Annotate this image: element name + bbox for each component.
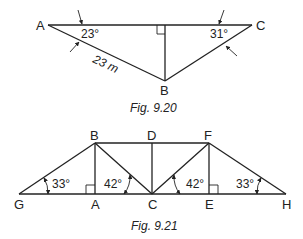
angle-A-arrow-top-icon: [78, 10, 82, 24]
figure-9-20-caption: Fig. 9.20: [130, 101, 177, 115]
angle-BCA-arc-icon: [124, 175, 130, 194]
length-AB-value: 23 m: [90, 52, 121, 76]
angle-A-value: 23°: [81, 27, 99, 41]
line-AB: [48, 25, 165, 81]
point-H-label: H: [282, 197, 291, 212]
angle-G-arc-icon: [44, 178, 48, 194]
angle-H-value: 33°: [236, 177, 254, 191]
point-B-label: B: [160, 83, 169, 98]
angle-FCE-arc-icon: [174, 175, 180, 194]
right-angle-marker: [157, 25, 165, 34]
point-E-label: E: [205, 197, 214, 212]
line-CB: [165, 25, 252, 81]
point-A-label: A: [36, 18, 45, 33]
point-G-label: G: [14, 197, 24, 212]
angle-FCE-value: 42°: [186, 177, 204, 191]
angle-H-arc-icon: [257, 178, 261, 194]
angle-C-value: 31°: [210, 27, 228, 41]
figure-9-21-caption: Fig. 9.21: [131, 219, 178, 233]
angle-A-arrow-bottom-icon: [70, 42, 79, 52]
point-B-label: B: [90, 128, 99, 143]
point-C-label: C: [256, 18, 265, 33]
angle-C-arrow-bottom-icon: [226, 46, 237, 56]
angle-G-value: 33°: [52, 177, 70, 191]
diagram-canvas: A C B 23° 31° 23 m Fig. 9.20 B D F G A C…: [0, 0, 303, 239]
point-C-label: C: [148, 197, 157, 212]
point-A-label: A: [91, 197, 100, 212]
angle-C-arrow-top-icon: [219, 10, 224, 24]
right-angle-marker-A: [86, 185, 95, 194]
figure-9-21: B D F G A C E H 33° 42° 42° 33° Fig. 9.2…: [14, 128, 291, 233]
point-F-label: F: [204, 128, 212, 143]
figure-9-20: A C B 23° 31° 23 m Fig. 9.20: [36, 10, 265, 115]
right-angle-marker-E: [209, 185, 218, 194]
angle-BCA-value: 42°: [104, 177, 122, 191]
point-D-label: D: [147, 128, 156, 143]
